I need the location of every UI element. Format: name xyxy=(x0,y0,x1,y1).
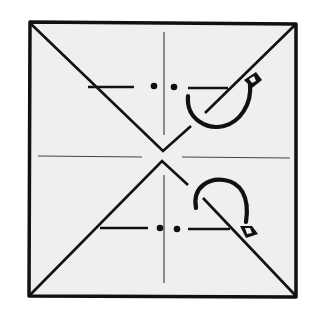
origami-fold-diagram xyxy=(0,0,314,322)
